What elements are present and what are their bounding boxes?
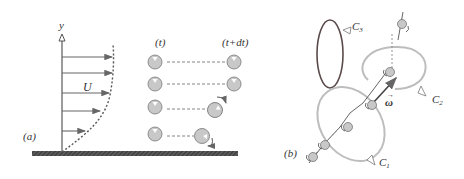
c2-label: C2 — [432, 93, 443, 107]
particles-at-t-dt — [194, 55, 241, 146]
c3-label: C3 — [352, 20, 363, 34]
y-axis-arrowhead-icon — [59, 34, 65, 41]
velocity-profile-curve — [62, 44, 114, 152]
panel-a: y U (a) (t) (t+dt) — [23, 19, 249, 156]
vortex-line — [309, 70, 388, 163]
time-t-label: (t) — [155, 36, 166, 49]
particles-at-t — [148, 55, 162, 141]
particle — [227, 77, 241, 91]
rotation-arrow-icon — [217, 97, 226, 103]
velocity-profile-arrows — [62, 57, 112, 131]
vorticity-vector-mark: → — [387, 91, 394, 99]
time-t-dt-label: (t+dt) — [222, 36, 249, 49]
loop-c2 — [362, 47, 425, 89]
panel-b-label: (b) — [284, 147, 297, 160]
particle — [148, 55, 162, 69]
panel-a-label: (a) — [23, 130, 36, 143]
c1-label: C1 — [379, 156, 390, 170]
c3-marker-icon — [343, 27, 351, 34]
c2-marker-icon — [418, 86, 426, 96]
particle — [148, 127, 162, 141]
loop-c3 — [317, 20, 343, 88]
particle-rotated — [194, 128, 210, 144]
panel-b: C3 C2 C1 ω → — [284, 12, 443, 174]
figure: y U (a) (t) (t+dt) — [0, 0, 464, 179]
particle — [148, 100, 162, 114]
trajectories — [167, 62, 226, 136]
velocity-label: U — [83, 80, 93, 94]
y-axis-label: y — [58, 19, 64, 31]
particle — [227, 55, 241, 69]
particle — [148, 77, 162, 91]
particle-rotated — [205, 100, 225, 120]
